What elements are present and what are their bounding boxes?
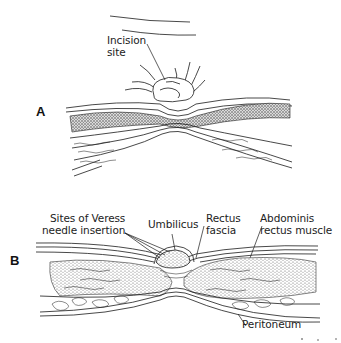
label-veress-line2: needle insertion [42, 224, 125, 236]
label-incision-line2: site [107, 46, 146, 58]
label-incision-site: Incision site [107, 34, 146, 58]
figure-line-art [0, 0, 341, 343]
panel-a-letter: A [36, 104, 45, 119]
label-rectus-fascia: Rectus fascia [206, 212, 241, 236]
label-rectus-fascia-line2: fascia [206, 224, 241, 236]
label-umbilicus: Umbilicus [148, 218, 198, 230]
panel-b-letter: B [10, 253, 19, 268]
panel-a-drawing [66, 16, 292, 176]
label-rectus-fascia-line1: Rectus [206, 212, 241, 224]
label-veress-sites: Sites of Veress needle insertion [42, 212, 125, 236]
label-veress-line1: Sites of Veress [42, 212, 125, 224]
label-abdominis-line1: Abdominis [260, 212, 332, 224]
label-abdominis-rectus-muscle: Abdominis rectus muscle [260, 212, 332, 236]
label-incision-line1: Incision [107, 34, 146, 46]
label-abdominis-line2: rectus muscle [260, 224, 332, 236]
label-peritoneum: Peritoneum [242, 318, 301, 330]
anatomical-figure: A Incision site B Sites of Veress needle… [0, 0, 341, 343]
